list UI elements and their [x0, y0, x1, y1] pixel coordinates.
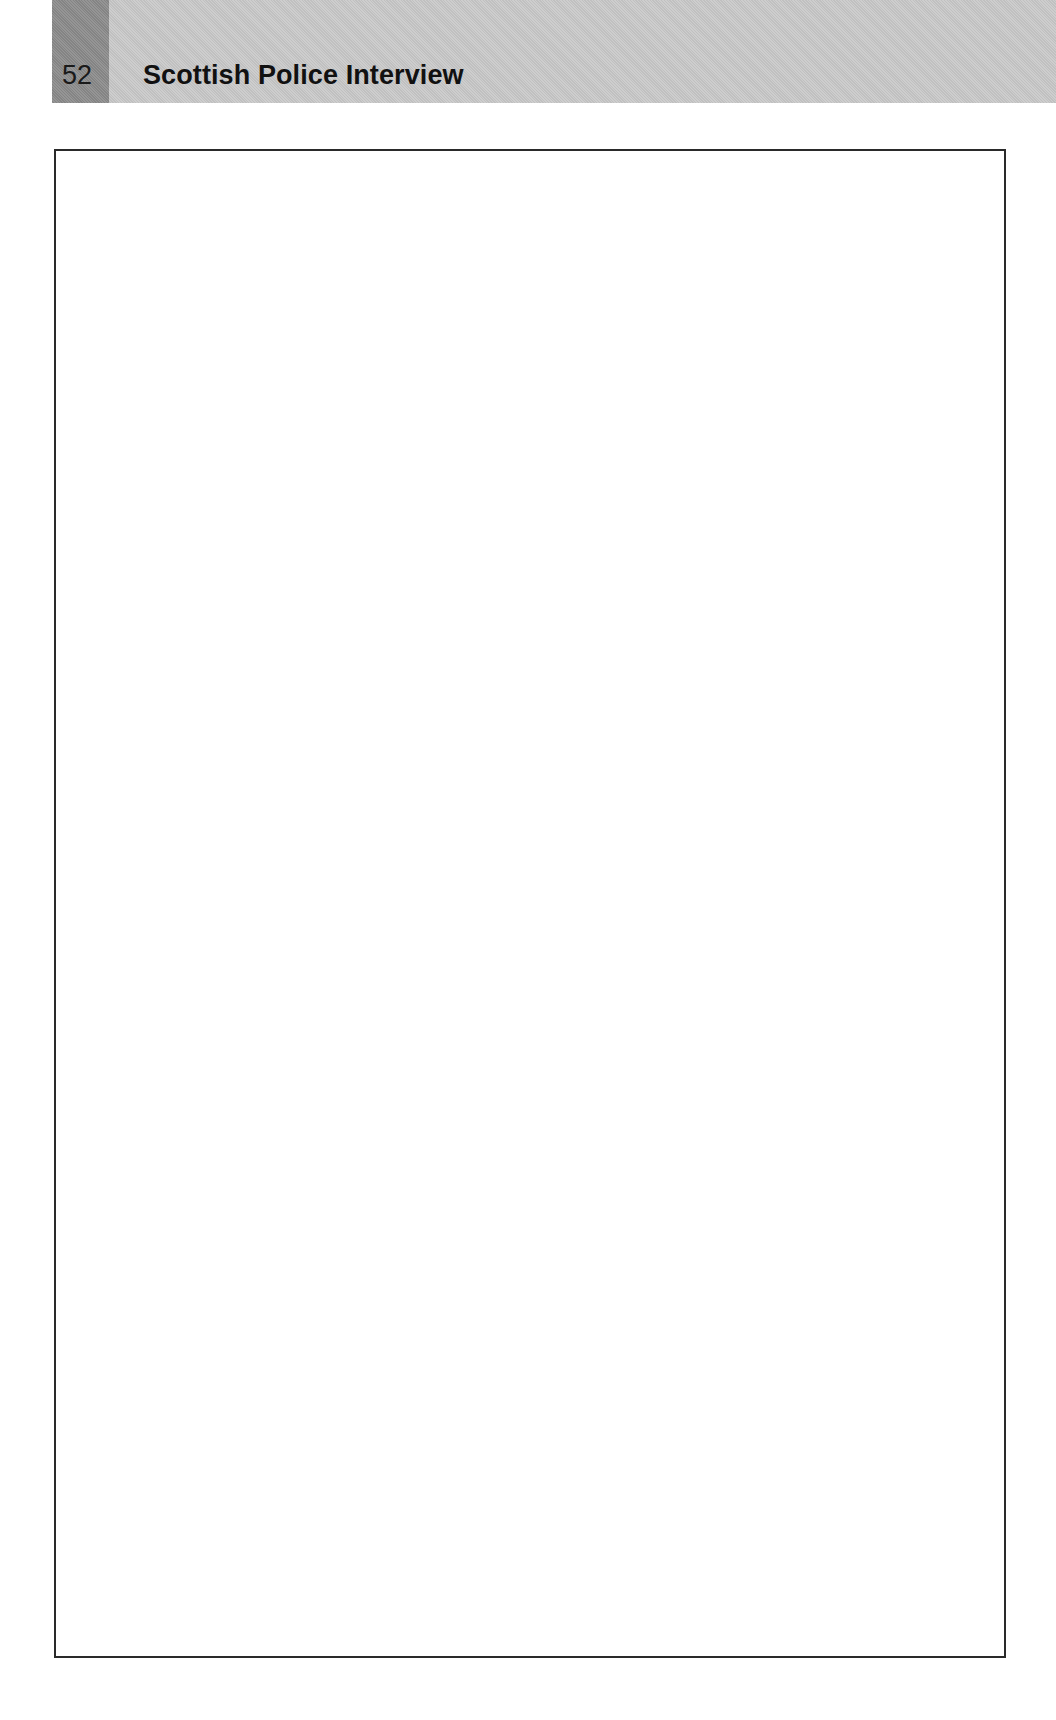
- page-number: 52: [62, 60, 92, 90]
- empty-content-box: [54, 149, 1006, 1658]
- running-title: Scottish Police Interview: [143, 60, 464, 90]
